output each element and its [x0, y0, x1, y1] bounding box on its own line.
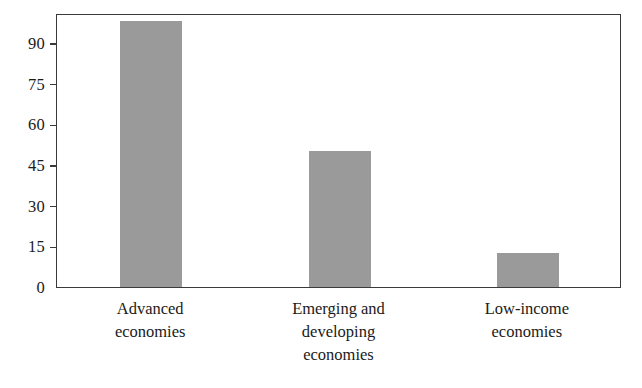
y-axis-tick-label: 15	[5, 237, 45, 257]
bar-chart-figure: 0153045607590 AdvancedeconomiesEmerging …	[0, 0, 642, 388]
x-axis-category-label: Low-incomeeconomies	[433, 297, 621, 343]
y-axis-tick-label: 60	[5, 115, 45, 135]
y-axis-tick-label: 75	[5, 75, 45, 95]
y-axis-tick-label: 30	[5, 197, 45, 217]
y-axis-tick-label: 90	[5, 34, 45, 54]
x-axis-label-line: economies	[433, 320, 621, 343]
x-axis-label-line: developing	[244, 320, 432, 343]
bar	[497, 253, 559, 287]
x-axis-label-line: Emerging and	[244, 297, 432, 320]
x-axis-label-line: economies	[56, 320, 244, 343]
x-axis-label-line: Advanced	[56, 297, 244, 320]
y-axis-tick-label: 0	[5, 278, 45, 298]
x-axis-category-label: Advancedeconomies	[56, 297, 244, 343]
x-axis-label-line: Low-income	[433, 297, 621, 320]
x-axis-label-line: economies	[244, 343, 432, 366]
x-axis-category-label: Emerging anddevelopingeconomies	[244, 297, 432, 366]
plot-area	[56, 14, 621, 288]
bar	[120, 21, 182, 287]
bar	[309, 151, 371, 287]
y-axis-tick-label: 45	[5, 156, 45, 176]
